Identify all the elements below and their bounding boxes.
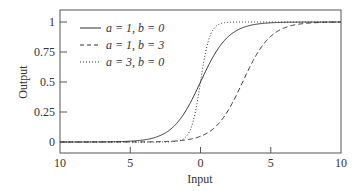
legend-label-2: a = 1, b = 3 — [106, 38, 164, 52]
x-tick-label: 10 — [54, 156, 66, 170]
y-tick-label: 0.75 — [34, 45, 55, 59]
x-tick-label: 5 — [127, 156, 133, 170]
legend: a = 1, b = 0 a = 1, b = 3 a = 3, b = 0 — [80, 21, 164, 69]
y-axis-label: Output — [16, 65, 30, 99]
y-axis: 00.250.50.751 — [34, 15, 67, 149]
y-tick-label: 0 — [49, 135, 55, 149]
x-axis-label: Input — [187, 172, 213, 186]
curves — [60, 22, 341, 142]
sigmoid-chart: 00.250.50.751 1050510 Input Output a = 1… — [0, 0, 361, 191]
y-tick-label: 0.5 — [40, 75, 55, 89]
legend-label-1: a = 1, b = 0 — [106, 21, 164, 35]
y-tick-label: 0.25 — [34, 105, 55, 119]
y-tick-label: 1 — [49, 15, 55, 29]
curve-solid — [60, 22, 341, 142]
legend-label-3: a = 3, b = 0 — [106, 55, 164, 69]
x-tick-label: 0 — [198, 156, 204, 170]
x-tick-label: 10 — [335, 156, 347, 170]
x-axis: 1050510 — [54, 147, 347, 170]
x-tick-label: 5 — [268, 156, 274, 170]
